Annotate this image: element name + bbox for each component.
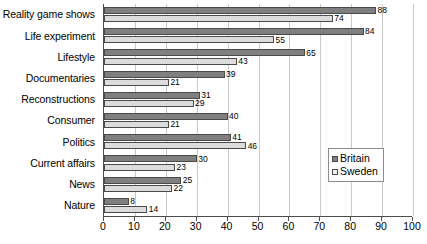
- bar-chart: Reality game showsLife experimentLifesty…: [0, 0, 427, 244]
- bar-sweden: [104, 36, 274, 43]
- x-axis-tick-label: 20: [159, 221, 171, 232]
- gridline: [413, 4, 414, 216]
- x-axis-tick-label: 0: [100, 221, 106, 232]
- bar-sweden: [104, 206, 147, 213]
- bar-britain: [104, 113, 228, 120]
- bar-value-label: 43: [238, 57, 247, 66]
- bar-sweden: [104, 58, 237, 65]
- x-axis-tick-label: 30: [190, 221, 202, 232]
- bar-sweden: [104, 100, 194, 107]
- bar-value-label: 88: [377, 6, 386, 15]
- bar-item: 21: [104, 121, 413, 128]
- bar-item: 29: [104, 100, 413, 107]
- bar-sweden: [104, 79, 169, 86]
- x-axis-tick-label: 40: [221, 221, 233, 232]
- bar-sweden: [104, 185, 172, 192]
- bar-britain: [104, 49, 305, 56]
- x-axis-tick-label: 90: [375, 221, 387, 232]
- bar-britain: [104, 71, 225, 78]
- bar-value-label: 41: [232, 133, 241, 142]
- bar-item: 40: [104, 113, 413, 120]
- bar-britain: [104, 134, 231, 141]
- bar-value-label: 21: [170, 78, 179, 87]
- category-label: Documentaries: [0, 68, 99, 89]
- category-label: Nature: [0, 195, 99, 216]
- bar-group: 3129: [104, 89, 413, 110]
- x-axis-tick-label: 100: [403, 221, 421, 232]
- bar-value-label: 14: [149, 205, 158, 214]
- bar-group: 6543: [104, 46, 413, 67]
- bar-item: 21: [104, 79, 413, 86]
- bar-item: 22: [104, 185, 413, 192]
- bar-britain: [104, 177, 181, 184]
- category-label: Reality game shows: [0, 4, 99, 25]
- category-label: Politics: [0, 131, 99, 152]
- bar-item: 31: [104, 92, 413, 99]
- bar-sweden: [104, 121, 169, 128]
- category-label: Life experiment: [0, 25, 99, 46]
- category-label: Lifestyle: [0, 46, 99, 67]
- x-axis-tick-labels: 0102030405060708090100: [103, 221, 412, 235]
- plot-area: 887484556543392131294021414630232522814: [103, 4, 413, 216]
- category-label: Reconstructions: [0, 89, 99, 110]
- bar-value-label: 25: [183, 176, 192, 185]
- bar-value-label: 22: [173, 184, 182, 193]
- x-axis-tick-label: 70: [313, 221, 325, 232]
- legend-swatch-icon: [332, 156, 338, 162]
- category-label: Current affairs: [0, 152, 99, 173]
- bar-value-label: 29: [195, 99, 204, 108]
- bar-britain: [104, 92, 200, 99]
- bar-value-label: 46: [248, 142, 257, 151]
- x-axis-tick-label: 60: [283, 221, 295, 232]
- x-axis-tick-label: 80: [344, 221, 356, 232]
- bar-item: 14: [104, 206, 413, 213]
- bar-value-label: 21: [170, 120, 179, 129]
- bar-sweden: [104, 15, 333, 22]
- bar-value-label: 65: [306, 49, 315, 58]
- bar-group: 8874: [104, 4, 413, 25]
- legend-label: Sweden: [340, 166, 378, 177]
- x-axis-tick-label: 50: [252, 221, 264, 232]
- bar-item: 65: [104, 49, 413, 56]
- bar-sweden: [104, 142, 246, 149]
- legend-item-sweden: Sweden: [332, 165, 378, 178]
- bar-item: 84: [104, 28, 413, 35]
- bar-group: 814: [104, 195, 413, 216]
- bar-value-label: 23: [177, 163, 186, 172]
- bar-item: 88: [104, 7, 413, 14]
- bar-britain: [104, 28, 364, 35]
- legend-label: Britain: [340, 153, 370, 164]
- legend-swatch-icon: [332, 169, 338, 175]
- bar-group: 8455: [104, 25, 413, 46]
- x-axis-tick-label: 10: [128, 221, 140, 232]
- bar-value-label: 39: [226, 70, 235, 79]
- bar-item: 43: [104, 58, 413, 65]
- bar-sweden: [104, 164, 175, 171]
- bar-value-label: 55: [275, 36, 284, 45]
- bar-value-label: 30: [198, 155, 207, 164]
- bar-value-label: 84: [365, 27, 374, 36]
- bar-rows: 887484556543392131294021414630232522814: [104, 4, 413, 216]
- bar-item: 74: [104, 15, 413, 22]
- bar-value-label: 40: [229, 112, 238, 121]
- bar-item: 41: [104, 134, 413, 141]
- category-label: News: [0, 174, 99, 195]
- bar-britain: [104, 198, 129, 205]
- bar-value-label: 8: [130, 197, 135, 206]
- category-label: Consumer: [0, 110, 99, 131]
- legend-item-britain: Britain: [332, 152, 378, 165]
- chart-legend: BritainSweden: [328, 148, 384, 182]
- bar-group: 3921: [104, 68, 413, 89]
- bar-item: 55: [104, 36, 413, 43]
- bar-value-label: 74: [334, 14, 343, 23]
- category-axis-labels: Reality game showsLife experimentLifesty…: [0, 4, 99, 216]
- bar-group: 4021: [104, 110, 413, 131]
- bar-item: 39: [104, 71, 413, 78]
